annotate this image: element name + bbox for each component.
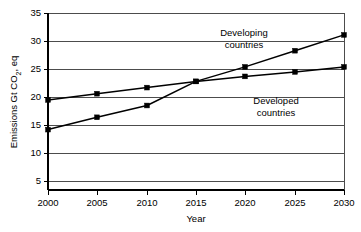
emissions-line-chart: 35 30 25 20 15 10 5 2000 2005 2010 2015 … bbox=[0, 0, 361, 232]
x-tick-label-2025: 2025 bbox=[284, 197, 305, 208]
y-tick-label-20: 20 bbox=[30, 91, 41, 102]
y-tick-label-15: 15 bbox=[30, 119, 41, 130]
data-point-developing-2010 bbox=[145, 103, 150, 108]
chart-canvas: 35 30 25 20 15 10 5 2000 2005 2010 2015 … bbox=[0, 0, 361, 232]
y-tick-label-25: 25 bbox=[30, 63, 41, 74]
data-point-developing-2005 bbox=[95, 115, 100, 120]
data-point-developed-2000 bbox=[46, 98, 51, 103]
developed-annotation: Developed countries bbox=[253, 95, 298, 118]
data-point-developed-2005 bbox=[95, 91, 100, 96]
data-point-developing-2015 bbox=[194, 79, 199, 84]
data-point-developed-2030 bbox=[342, 65, 347, 70]
developed-annotation-line1: Developed bbox=[253, 95, 298, 106]
x-tick-label-2015: 2015 bbox=[185, 197, 206, 208]
developing-annotation: Developing countries bbox=[220, 27, 268, 50]
developing-annotation-line2: countries bbox=[225, 39, 264, 50]
x-tick-label-2010: 2010 bbox=[136, 197, 157, 208]
y-axis-title-prefix: Emissions Gt CO bbox=[8, 75, 19, 148]
x-tick-label-2000: 2000 bbox=[37, 197, 58, 208]
data-point-developed-2010 bbox=[145, 85, 150, 90]
data-point-developing-2025 bbox=[293, 48, 298, 53]
y-tick-label-10: 10 bbox=[30, 147, 41, 158]
data-point-developing-2000 bbox=[46, 127, 51, 132]
developing-annotation-line1: Developing bbox=[220, 27, 268, 38]
data-point-developing-2020 bbox=[243, 65, 248, 70]
data-point-developing-2030 bbox=[342, 33, 347, 38]
x-axis-title: Year bbox=[186, 213, 205, 224]
x-tick-label-2005: 2005 bbox=[86, 197, 107, 208]
y-tick-label-5: 5 bbox=[36, 175, 41, 186]
y-axis-title-suffix: , eq bbox=[8, 56, 19, 72]
y-tick-label-35: 35 bbox=[30, 7, 41, 18]
data-point-developed-2020 bbox=[243, 74, 248, 79]
x-tick-label-2020: 2020 bbox=[234, 197, 255, 208]
data-point-developed-2025 bbox=[293, 70, 298, 75]
y-tick-label-30: 30 bbox=[30, 35, 41, 46]
x-tick-label-2030: 2030 bbox=[333, 197, 354, 208]
developed-annotation-line2: countries bbox=[257, 107, 296, 118]
